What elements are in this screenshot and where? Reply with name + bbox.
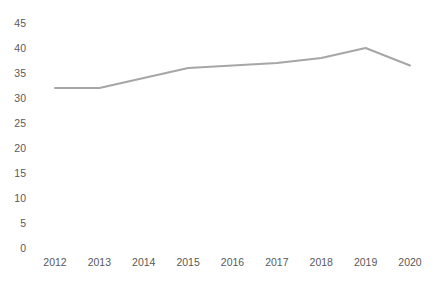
data-series-line <box>55 48 410 88</box>
line-chart: 0510152025303540452012201320142015201620… <box>0 0 439 283</box>
x-axis-tick-label: 2016 <box>221 256 245 268</box>
x-axis-tick-label: 2012 <box>43 256 67 268</box>
y-axis-tick-label: 20 <box>14 142 26 154</box>
x-axis-tick-label: 2014 <box>132 256 156 268</box>
y-axis-tick-label: 25 <box>14 117 26 129</box>
y-axis-tick-label: 40 <box>14 42 26 54</box>
x-axis-tick-label: 2019 <box>354 256 378 268</box>
y-axis-tick-label: 5 <box>20 217 26 229</box>
chart-canvas: 0510152025303540452012201320142015201620… <box>0 0 439 283</box>
x-axis-tick-label: 2015 <box>176 256 200 268</box>
x-axis-tick-label: 2020 <box>398 256 422 268</box>
x-axis-tick-label: 2013 <box>88 256 112 268</box>
y-axis-tick-label: 45 <box>14 17 26 29</box>
y-axis-tick-label: 30 <box>14 92 26 104</box>
y-axis-tick-label: 0 <box>20 242 26 254</box>
y-axis-tick-label: 15 <box>14 167 26 179</box>
x-axis-tick-label: 2018 <box>310 256 334 268</box>
y-axis-tick-label: 35 <box>14 67 26 79</box>
y-axis-tick-label: 10 <box>14 192 26 204</box>
x-axis-tick-label: 2017 <box>265 256 289 268</box>
